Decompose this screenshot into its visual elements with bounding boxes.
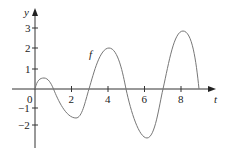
svg-text:3: 3 bbox=[25, 22, 31, 34]
svg-text:1: 1 bbox=[25, 63, 31, 75]
svg-text:−2: −2 bbox=[18, 119, 30, 131]
chart: y t 0 2 4 6 8 3 2 1 −1 −2 f bbox=[0, 0, 226, 154]
svg-text:8: 8 bbox=[178, 93, 184, 105]
curve-label: f bbox=[89, 48, 94, 60]
svg-text:4: 4 bbox=[105, 93, 111, 105]
x-axis-arrow-icon bbox=[208, 86, 216, 92]
svg-text:−1: −1 bbox=[18, 102, 30, 114]
svg-text:2: 2 bbox=[25, 42, 31, 54]
curve-f bbox=[35, 31, 199, 138]
svg-text:6: 6 bbox=[142, 93, 148, 105]
y-axis-label: y bbox=[23, 6, 29, 18]
y-axis-arrow-icon bbox=[32, 8, 38, 16]
x-axis-label: t bbox=[214, 93, 218, 105]
y-tick-labels: 3 2 1 −1 −2 bbox=[18, 22, 31, 131]
svg-text:2: 2 bbox=[69, 93, 75, 105]
